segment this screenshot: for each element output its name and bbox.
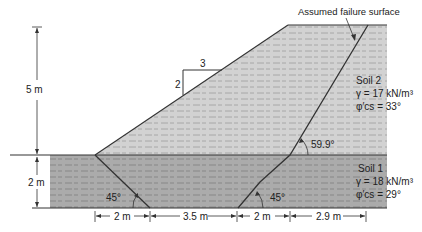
- slope-diagram: 3 2 5 m 2 m Assumed failure surface 59.9…: [0, 0, 422, 232]
- soil1-gamma: γ = 18 kN/m³: [356, 176, 414, 187]
- soil1-phi: φ′cs = 29°: [356, 189, 401, 200]
- soil1-region: [50, 155, 387, 208]
- arrow-up-icon: [35, 28, 39, 33]
- angle-right-label: 45°: [270, 192, 285, 203]
- soil2-name: Soil 2: [356, 75, 381, 86]
- soil2-gamma: γ = 17 kN/m³: [356, 88, 414, 99]
- soil1-name: Soil 1: [358, 163, 383, 174]
- slope-ratio-vertical: 2: [175, 79, 181, 90]
- angle-left-label: 45°: [106, 192, 121, 203]
- failure-surface-annotation: Assumed failure surface: [298, 6, 400, 17]
- bottom-dim-1: 2 m: [114, 211, 131, 222]
- arrow-up-icon: [35, 157, 39, 162]
- height-upper-label: 5 m: [26, 84, 43, 95]
- bottom-dim-4: 2.9 m: [316, 211, 341, 222]
- height-lower-label: 2 m: [28, 177, 45, 188]
- arrow-down-icon: [35, 202, 39, 207]
- bottom-dim-2: 3.5 m: [183, 211, 208, 222]
- bottom-dim-3: 2 m: [254, 211, 271, 222]
- arrow-down-icon: [35, 149, 39, 154]
- soil2-phi: φ′cs = 33°: [356, 101, 401, 112]
- slope-ratio-horizontal: 3: [200, 58, 206, 69]
- soil2-region: [95, 25, 387, 155]
- angle-upper-label: 59.9°: [311, 139, 334, 150]
